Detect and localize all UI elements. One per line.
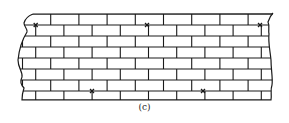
brick-courses <box>0 14 289 100</box>
figure-caption: (c) <box>0 102 289 112</box>
